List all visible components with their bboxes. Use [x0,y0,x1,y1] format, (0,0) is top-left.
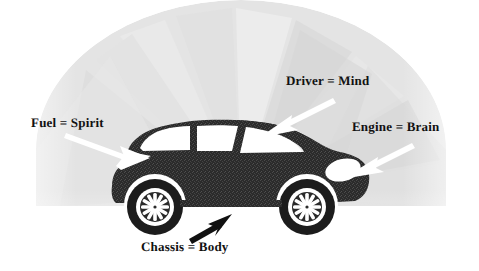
label-engine: Engine = Brain [352,120,440,133]
label-chassis: Chassis = Body [141,240,229,253]
label-fuel: Fuel = Spirit [31,116,104,129]
diagram-canvas: Fuel = Spirit Driver = Mind Engine = Bra… [0,0,479,271]
driver-arrow-icon [266,98,336,136]
label-driver: Driver = Mind [286,74,369,87]
fuel-arrow-icon [64,133,151,170]
engine-arrow-icon [352,143,415,177]
arrows-layer [0,0,479,271]
